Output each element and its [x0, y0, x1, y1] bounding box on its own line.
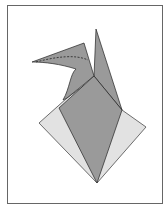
origami-diagram	[0, 0, 164, 216]
